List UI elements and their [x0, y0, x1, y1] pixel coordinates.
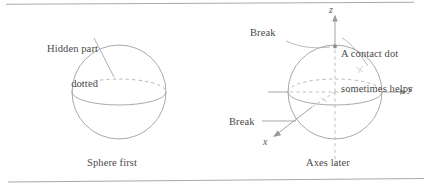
hidden-part-line-2: dotted: [14, 78, 98, 90]
z-axis-arrowhead: [332, 15, 338, 22]
right-panel-caption: Axes later: [289, 157, 367, 169]
y-axis-label: y: [408, 83, 412, 94]
break-top-annotation: Break: [250, 27, 276, 39]
bottom-rule: [8, 179, 424, 183]
hidden-part-annotation: Hidden part dotted: [14, 19, 98, 113]
contact-dot-line-1: A contact dot: [341, 48, 432, 60]
contact-dot: [333, 45, 337, 49]
contact-dot-annotation: A contact dot sometimes helps: [341, 24, 432, 118]
break-bottom-annotation: Break: [229, 116, 255, 128]
construction-hatch-3: [321, 98, 327, 102]
hidden-part-line-1: Hidden part: [14, 43, 98, 55]
left-panel-caption: Sphere first: [66, 157, 158, 169]
x-axis-label: x: [263, 136, 267, 147]
top-rule: [6, 2, 414, 4]
contact-dot-line-2: sometimes helps: [341, 83, 432, 95]
z-axis-label: z: [329, 4, 333, 15]
figure-container: Hidden part dotted Sphere first Break Br…: [0, 0, 432, 186]
